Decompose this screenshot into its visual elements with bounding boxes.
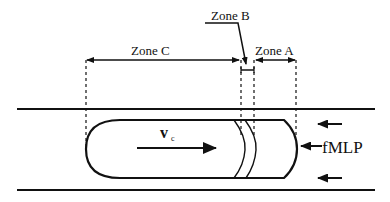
zone-c-label: Zone C <box>131 43 170 58</box>
velocity-symbol: v <box>160 124 168 141</box>
zone-b-label: Zone B <box>211 8 250 23</box>
diagram-canvas: Zone C Zone B Zone A v c fMLP <box>0 0 390 202</box>
fmlp-label: fMLP <box>322 138 363 157</box>
cell-migration-diagram: Zone C Zone B Zone A v c fMLP <box>0 0 390 202</box>
zone-b-bracket <box>241 67 254 73</box>
zone-boundary-guides <box>86 60 296 148</box>
zone-b-leader <box>205 23 246 64</box>
fmlp-flow: fMLP <box>301 124 363 178</box>
velocity-vector: v c <box>137 124 216 148</box>
zone-a-label: Zone A <box>255 43 294 58</box>
zone-b-left-boundary <box>234 120 245 178</box>
velocity-subscript: c <box>171 134 175 143</box>
